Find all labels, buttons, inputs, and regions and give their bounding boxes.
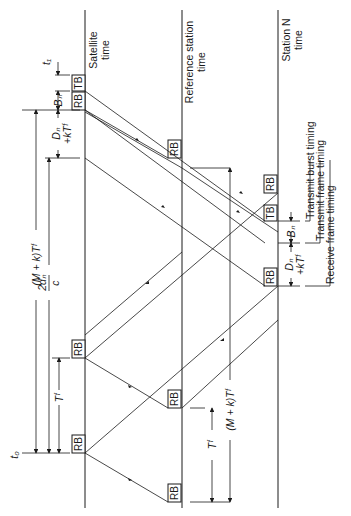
satellite-rb-box-bottom: RB xyxy=(72,435,85,453)
svg-text:RB: RB xyxy=(73,94,84,108)
svg-text:RB: RB xyxy=(169,486,180,500)
svg-text:TB: TB xyxy=(265,206,276,219)
svg-text:RB: RB xyxy=(265,270,276,284)
svg-text:Satellite: Satellite xyxy=(87,31,99,69)
svg-text:t₁: t₁ xyxy=(40,58,52,65)
reference-axis-label: Reference station time xyxy=(183,21,207,103)
svg-text:Tᶠ: Tᶠ xyxy=(53,392,65,402)
tdma-timing-diagram: Satellite time Reference station time St… xyxy=(0,0,351,516)
reference-rb-box-bottom: RB xyxy=(168,484,181,502)
svg-text:Reference station: Reference station xyxy=(183,21,195,103)
svg-text:time: time xyxy=(195,52,207,72)
station-n-tb-box: TB xyxy=(264,205,277,221)
reference-rb-box-mid: RB xyxy=(168,390,181,408)
satellite-tb-box: TB xyxy=(72,75,85,91)
timing-legend: Transmit burst timing Transmit frame tim… xyxy=(304,121,336,284)
svg-text:time: time xyxy=(292,30,304,50)
satellite-rb-box-mid: RB xyxy=(72,340,85,358)
svg-text:Bₙ: Bₙ xyxy=(285,226,297,238)
svg-text:(M + k)Tᶠ: (M + k)Tᶠ xyxy=(224,387,236,430)
svg-text:c: c xyxy=(49,280,61,286)
station-n-rb-box-top: RB xyxy=(264,175,277,193)
svg-text:2dₙ: 2dₙ xyxy=(36,274,48,292)
svg-text:t₀: t₀ xyxy=(8,451,20,459)
svg-text:Tᶠ: Tᶠ xyxy=(206,439,218,449)
svg-text:RB: RB xyxy=(265,177,276,191)
dimension-labels: t₁ Bₙ Dₙ +kTᶠ (M + k)Tᶠ 2dₙ c Tᶠ t₀ Tᶠ (… xyxy=(8,58,306,458)
svg-text:+kTᶠ: +kTᶠ xyxy=(294,253,306,275)
station-n-axis-label: Station N time xyxy=(280,18,304,61)
svg-text:Bₙ: Bₙ xyxy=(52,95,64,107)
svg-text:RB: RB xyxy=(169,142,180,156)
legend-receive-frame: Receive frame timing xyxy=(324,185,336,284)
svg-text:Station N: Station N xyxy=(280,18,292,61)
svg-text:+kTᶠ: +kTᶠ xyxy=(61,122,73,144)
svg-text:RB: RB xyxy=(73,342,84,356)
satellite-axis-label: Satellite time xyxy=(87,31,111,69)
svg-text:RB: RB xyxy=(169,392,180,406)
svg-text:time: time xyxy=(99,40,111,60)
svg-text:TB: TB xyxy=(73,76,84,89)
svg-text:RB: RB xyxy=(73,437,84,451)
station-n-rb-box-bottom: RB xyxy=(264,268,277,286)
satellite-rb-box-top: RB xyxy=(72,92,85,110)
reference-dimensions xyxy=(190,168,230,502)
